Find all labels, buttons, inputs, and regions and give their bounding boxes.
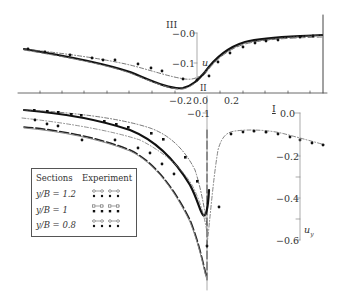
xtick-m02: −0.2 (169, 96, 192, 106)
right-ytick-0: 0.0 (280, 109, 295, 119)
top-ytick-0: −0.0 (172, 29, 195, 39)
right-ytick-6: −0.6 (276, 236, 299, 246)
figure: III −0.0 −0.1 u II −0.2 0.0 0.2 −0.1 I 0… (0, 0, 344, 295)
top-ytick-1: −0.1 (172, 59, 195, 69)
chart-canvas (0, 0, 344, 295)
xtick-02: 0.2 (224, 96, 239, 106)
uy-axis-label: uy (304, 225, 314, 237)
panel-II-label: II (200, 84, 207, 93)
legend-markers (32, 169, 136, 236)
legend: Sections Experiment y/B = 1.2 y/B = 1 y/… (31, 168, 137, 237)
xtick-00: 0.0 (193, 96, 208, 106)
u-axis-label: u (202, 58, 208, 68)
right-ytick-2: −0.2 (276, 152, 299, 162)
mid-ytick-1: −0.1 (187, 109, 210, 119)
panel-I-label: I (272, 104, 276, 114)
right-ytick-4: −0.4 (276, 194, 299, 204)
